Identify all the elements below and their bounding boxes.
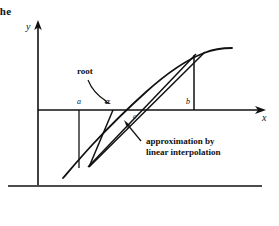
approximation-annotation-line1: approximation by	[146, 136, 215, 146]
root-annotation-label: root	[77, 67, 93, 76]
point-label-alpha: α	[105, 98, 110, 106]
point-label-c: c	[133, 113, 137, 121]
y-axis	[34, 20, 42, 185]
x-axis	[38, 106, 266, 114]
x-axis-label: x	[262, 113, 266, 123]
point-label-a: a	[77, 98, 81, 106]
y-axis-label: y	[26, 22, 30, 32]
point-label-b: b	[186, 98, 190, 106]
figure-drawing	[0, 0, 279, 226]
figure-container: the	[0, 0, 279, 226]
approximation-annotation-line2: linear interpolation	[146, 147, 221, 157]
chord-lower-vertex	[89, 110, 113, 167]
